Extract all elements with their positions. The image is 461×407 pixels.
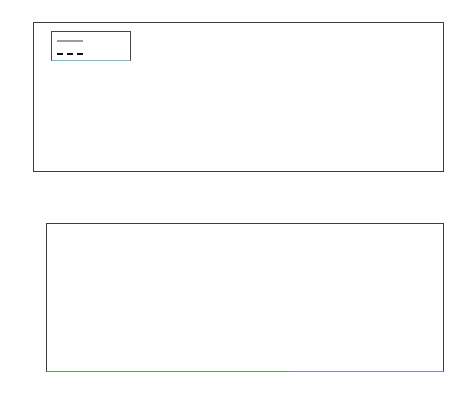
chart-panel-income-and-sales [0, 0, 461, 195]
legend-swatch-sales-icon [57, 49, 83, 59]
legend-swatch-income-icon [57, 36, 83, 46]
legend-item-sales[interactable] [52, 47, 130, 60]
axis-frame-bottom [47, 224, 444, 372]
chart-panel-profit-margin [0, 195, 461, 407]
figure-container [0, 0, 461, 407]
legend-box-top[interactable] [51, 31, 131, 61]
legend-item-income[interactable] [52, 34, 130, 47]
plot-area-top [0, 0, 461, 195]
plot-area-bottom [0, 195, 461, 407]
